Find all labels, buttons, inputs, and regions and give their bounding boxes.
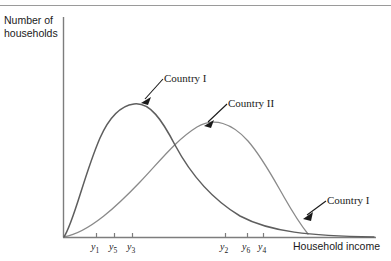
tick-label-subscript: 4 xyxy=(262,246,266,255)
annotation-country-1-top: Country I xyxy=(164,72,206,85)
curve-country-2 xyxy=(64,122,308,237)
x-tick-label-y2: y2 xyxy=(220,240,228,257)
curve-country-1 xyxy=(64,104,374,237)
tick-label-subscript: 2 xyxy=(224,246,228,255)
arrow-head-country-1-bottom xyxy=(303,212,313,221)
y-axis-label-line-2: households xyxy=(4,27,58,39)
tick-label-subscript: 5 xyxy=(113,246,117,255)
arrow-line-country-2 xyxy=(208,104,227,122)
x-tick-label-y3: y3 xyxy=(127,240,135,257)
x-tick-label-y4: y4 xyxy=(258,240,266,257)
tick-label-subscript: 3 xyxy=(131,246,135,255)
arrow-line-country-1-bottom xyxy=(307,201,326,215)
x-tick-label-y1: y1 xyxy=(91,240,99,257)
y-axis-label-line-1: Number of xyxy=(4,14,53,26)
arrow-line-country-1-top xyxy=(145,79,163,99)
annotation-country-2: Country II xyxy=(228,97,274,110)
annotation-country-1-bottom: Country I xyxy=(327,194,369,207)
x-tick-label-y6: y6 xyxy=(242,240,250,257)
tick-label-subscript: 6 xyxy=(246,246,250,255)
tick-label-subscript: 1 xyxy=(95,246,99,255)
chart-figure: Number ofhouseholds Household income Cou… xyxy=(0,0,391,261)
x-axis-label: Household income xyxy=(293,240,380,253)
x-tick-label-y5: y5 xyxy=(109,240,117,257)
y-axis-label: Number ofhouseholds xyxy=(4,14,74,40)
